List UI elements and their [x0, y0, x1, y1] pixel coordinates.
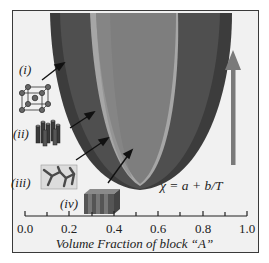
tick-label: 0.8 — [195, 221, 211, 237]
tick-label: 0.2 — [61, 221, 77, 237]
phase-label-i: (i) — [19, 62, 31, 78]
tick-label: 0.0 — [17, 221, 33, 237]
phase-label-iii: (iii) — [11, 175, 31, 191]
gyroid-network-icon — [41, 165, 77, 189]
chi-equation: χ = a + b/T — [160, 178, 222, 194]
x-axis-label: Volume Fraction of block “A” — [0, 236, 269, 252]
phase-label-iv: (iv) — [60, 196, 78, 212]
phase-diagram — [0, 0, 269, 263]
tick-label: 0.4 — [106, 221, 122, 237]
tick-label: 0.6 — [150, 221, 166, 237]
bcc-sphere-lattice-icon — [19, 84, 50, 112]
increasing-chi-arrow — [225, 50, 241, 165]
x-axis — [25, 211, 247, 216]
tick-label: 1.0 — [239, 221, 255, 237]
hexagonal-cylinders-icon — [36, 120, 60, 146]
phase-label-ii: (ii) — [13, 126, 29, 142]
lamellae-icon — [84, 189, 120, 214]
